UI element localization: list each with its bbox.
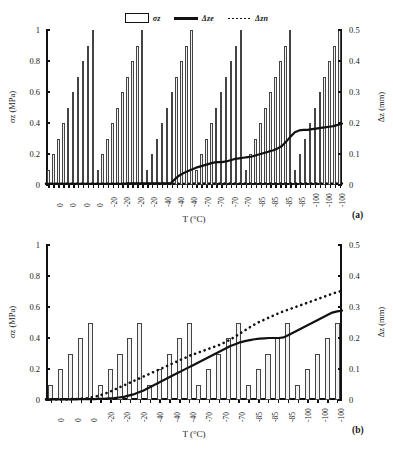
x-tick-mark (177, 185, 178, 188)
x-tick-mark (256, 185, 257, 188)
x-tick-label: -100 (325, 193, 334, 207)
chart-panel-b: 00.20.40.60.81 00.10.20.30.40.5 000-20-2… (0, 228, 393, 467)
y-tick-mark-left (46, 184, 50, 186)
x-tick-label: 0 (96, 203, 105, 207)
x-tick-mark (147, 185, 148, 188)
x-tick-mark (127, 185, 128, 188)
x-tick-label: -85 (255, 412, 264, 422)
x-tick-mark (120, 400, 121, 403)
x-tick-label: -20 (150, 197, 159, 207)
x-tick-label: -20 (123, 412, 132, 422)
x-tick-mark (315, 185, 316, 188)
x-tick-label: -20 (123, 197, 132, 207)
x-tick-label: -70 (222, 412, 231, 422)
x-tick-mark (206, 185, 207, 188)
y-tick-mark-left (46, 60, 50, 62)
y-tick-label-right: 0.3 (349, 87, 375, 97)
x-tick-label: -70 (204, 197, 213, 207)
x-tick-mark (71, 400, 72, 403)
y-tick-label-right: 0.5 (349, 25, 375, 35)
x-tick-mark (300, 185, 301, 188)
y-tick-mark-left (46, 368, 50, 370)
y-tick-mark-right (338, 60, 342, 62)
x-tick-label: 0 (90, 418, 99, 422)
y-tick-label-left: 0 (14, 180, 40, 190)
x-axis-title-b: T (°C) (46, 429, 342, 439)
x-axis-title-a: T (°C) (46, 214, 342, 224)
x-tick-label: -40 (156, 412, 165, 422)
y-tick-label-left: 1 (14, 240, 40, 250)
x-tick-mark (169, 400, 170, 403)
x-tick-mark (295, 185, 296, 188)
x-tick-mark (216, 185, 217, 188)
y-axis-title-right-b: Δz (mm) (376, 306, 386, 336)
x-tick-mark (231, 185, 232, 188)
figure-page: σz Δze Δzn 00.20.40.60.81 00.10.20.30.40… (0, 0, 393, 467)
x-tick-mark (275, 185, 276, 188)
y-tick-label-left: 0.4 (14, 118, 40, 128)
y-tick-mark-right (338, 122, 342, 124)
y-tick-label-right: 0.1 (349, 149, 375, 159)
y-tick-label-right: 0.4 (349, 271, 375, 281)
x-tick-label: -85 (258, 197, 267, 207)
x-tick-label: 0 (56, 203, 65, 207)
x-tick-mark (199, 400, 200, 403)
y-axis-title-left-a: σz (MPa) (7, 90, 17, 122)
x-tick-mark (251, 185, 252, 188)
x-tick-mark (110, 400, 111, 403)
x-tick-label: -20 (107, 412, 116, 422)
y-tick-label-right: 0.3 (349, 302, 375, 312)
x-tick-label: 0 (74, 418, 83, 422)
x-tick-mark (159, 400, 160, 403)
x-tick-mark (280, 185, 281, 188)
x-tick-mark (98, 185, 99, 188)
x-tick-label: -40 (173, 412, 182, 422)
chart-panel-a: 00.20.40.60.81 00.10.20.30.40.5 0000-20-… (0, 0, 393, 228)
x-tick-mark (179, 400, 180, 403)
y-tick-mark-left (46, 91, 50, 93)
x-tick-mark (172, 185, 173, 188)
x-tick-label: 0 (57, 418, 66, 422)
x-tick-label: -40 (190, 197, 199, 207)
x-tick-mark (61, 400, 62, 403)
y-tick-mark-right (338, 306, 342, 308)
x-tick-mark (201, 185, 202, 188)
x-tick-mark (51, 400, 52, 403)
x-tick-mark (140, 400, 141, 403)
y-tick-mark-right (338, 275, 342, 277)
y-tick-mark-right (338, 244, 342, 246)
x-tick-mark (167, 185, 168, 188)
y-tick-label-right: 0.4 (349, 56, 375, 66)
x-tick-mark (192, 185, 193, 188)
x-tick-mark (327, 400, 328, 403)
y-tick-label-left: 0.2 (14, 149, 40, 159)
y-tick-label-left: 0 (14, 395, 40, 405)
y-tick-label-left: 0.8 (14, 271, 40, 281)
x-tick-mark (113, 185, 114, 188)
x-tick-mark (209, 400, 210, 403)
panel-tag-a: (a) (352, 210, 363, 220)
x-tick-mark (118, 185, 119, 188)
y-tick-label-left: 0.2 (14, 364, 40, 374)
x-tick-mark (248, 400, 249, 403)
x-tick-mark (236, 185, 237, 188)
x-tick-mark (152, 185, 153, 188)
x-tick-mark (73, 185, 74, 188)
x-tick-mark (132, 185, 133, 188)
x-tick-mark (103, 185, 104, 188)
x-tick-mark (307, 400, 308, 403)
x-tick-mark (100, 400, 101, 403)
x-tick-mark (317, 400, 318, 403)
x-tick-mark (261, 185, 262, 188)
y-tick-label-right: 0 (349, 180, 375, 190)
y-tick-mark-left (46, 399, 50, 401)
y-tick-mark-right (338, 368, 342, 370)
x-tick-label: -85 (298, 197, 307, 207)
x-tick-label: -20 (110, 197, 119, 207)
x-tick-mark (196, 185, 197, 188)
plot-area-b (46, 245, 342, 400)
y-tick-mark-left (46, 337, 50, 339)
x-tick-mark (270, 185, 271, 188)
x-tick-mark (182, 185, 183, 188)
x-tick-mark (266, 185, 267, 188)
